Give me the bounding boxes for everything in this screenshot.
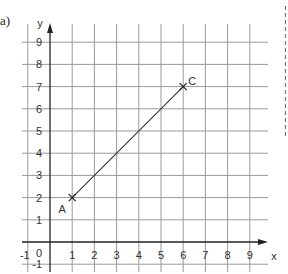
x-tick-label: 5 bbox=[158, 249, 164, 261]
y-tick-label: 9 bbox=[36, 36, 42, 48]
y-axis-label: y bbox=[37, 17, 43, 29]
axes bbox=[22, 23, 268, 272]
point-label-a: A bbox=[59, 203, 67, 215]
tick-labels: -1123456789987654321-10xy bbox=[20, 17, 277, 270]
x-axis-arrow-icon bbox=[258, 239, 268, 245]
grid-lines bbox=[22, 24, 268, 272]
coordinate-diagram: a) -1123456789987654321-10xy AC bbox=[0, 0, 288, 274]
geometry: AC bbox=[59, 75, 197, 215]
x-tick-label: 1 bbox=[69, 249, 75, 261]
y-tick-label: 2 bbox=[36, 192, 42, 204]
y-tick-label: 3 bbox=[36, 169, 42, 181]
origin-label: 0 bbox=[36, 247, 42, 259]
y-axis-arrow-icon bbox=[47, 23, 53, 33]
x-tick-label: -1 bbox=[20, 249, 30, 261]
x-tick-label: 8 bbox=[225, 249, 231, 261]
x-tick-label: 2 bbox=[91, 249, 97, 261]
x-tick-label: 4 bbox=[136, 249, 142, 261]
y-tick-label: 8 bbox=[36, 58, 42, 70]
grid-plot: -1123456789987654321-10xy AC bbox=[0, 0, 288, 274]
y-tick-label: 5 bbox=[36, 125, 42, 137]
x-tick-label: 9 bbox=[247, 249, 253, 261]
x-tick-label: 3 bbox=[114, 249, 120, 261]
y-tick-label: 6 bbox=[36, 103, 42, 115]
y-tick-label: 1 bbox=[36, 214, 42, 226]
point-label-c: C bbox=[188, 75, 196, 87]
y-tick-label: 4 bbox=[36, 147, 42, 159]
x-tick-label: 7 bbox=[202, 249, 208, 261]
x-axis-label: x bbox=[271, 250, 277, 262]
y-tick-label: -1 bbox=[32, 258, 42, 270]
y-tick-label: 7 bbox=[36, 81, 42, 93]
x-tick-label: 6 bbox=[180, 249, 186, 261]
segment-ac bbox=[72, 87, 183, 198]
